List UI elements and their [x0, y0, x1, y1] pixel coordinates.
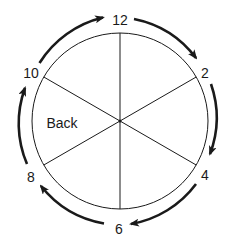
- arrow-12-to-2: [134, 19, 196, 58]
- arrow-4-to-6: [131, 184, 196, 224]
- region-label-back: Back: [46, 116, 77, 130]
- center-point: [119, 120, 122, 123]
- position-label-6: 6: [115, 222, 123, 236]
- position-label-10: 10: [23, 66, 39, 80]
- arrow-2-to-4: [210, 84, 217, 154]
- arrow-8-to-10: [19, 88, 27, 164]
- rotation-wheel-diagram: [0, 0, 231, 242]
- position-label-12: 12: [112, 13, 128, 27]
- arrow-10-to-12: [40, 18, 104, 64]
- position-label-4: 4: [201, 168, 209, 182]
- position-label-2: 2: [201, 66, 209, 80]
- position-label-8: 8: [27, 170, 35, 184]
